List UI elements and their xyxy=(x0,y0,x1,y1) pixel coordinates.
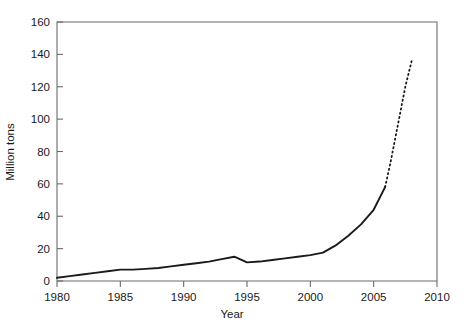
x-axis-title: Year xyxy=(220,308,243,320)
y-tick-label: 80 xyxy=(37,146,50,158)
x-tick-label: 1995 xyxy=(234,291,260,303)
line-chart: 020406080100120140160 198019851990199520… xyxy=(0,0,464,330)
y-tick-label: 0 xyxy=(44,275,50,287)
y-tick-label: 40 xyxy=(37,210,50,222)
x-tick-label: 1985 xyxy=(108,291,134,303)
y-tick-label: 100 xyxy=(31,113,50,125)
x-tick-label: 1980 xyxy=(44,291,70,303)
chart-container: 020406080100120140160 198019851990199520… xyxy=(0,0,464,330)
y-tick-label: 140 xyxy=(31,48,50,60)
x-tick-label: 1990 xyxy=(171,291,197,303)
x-tick-label: 2000 xyxy=(298,291,324,303)
y-axis-title: Million tons xyxy=(4,123,16,181)
y-tick-label: 120 xyxy=(31,81,50,93)
x-tick-label: 2005 xyxy=(361,291,387,303)
y-tick-label: 20 xyxy=(37,243,50,255)
x-tick-label: 2010 xyxy=(424,291,450,303)
y-tick-label: 60 xyxy=(37,178,50,190)
y-tick-label: 160 xyxy=(31,16,50,28)
